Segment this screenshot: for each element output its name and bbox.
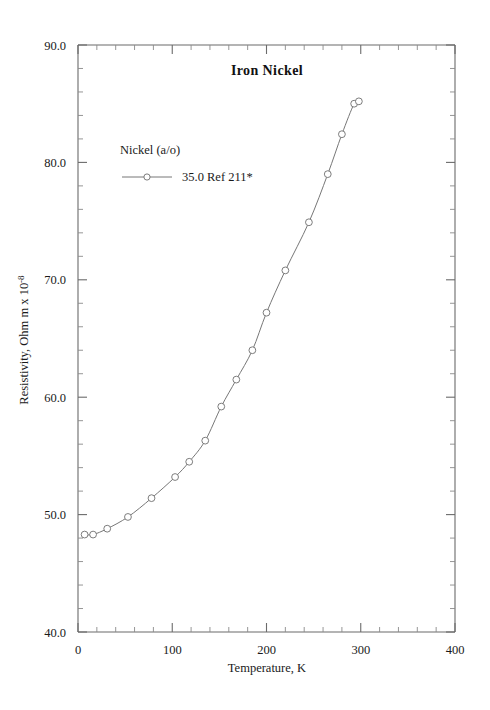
chart-background: [0, 0, 490, 710]
x-tick-label: 300: [351, 643, 370, 657]
data-point-marker: [148, 495, 155, 502]
y-tick-label: 90.0: [44, 39, 66, 53]
data-point-marker: [339, 131, 346, 138]
data-point-marker: [186, 458, 193, 465]
y-tick-label: 60.0: [44, 391, 66, 405]
y-axis-title-group: Resistivity, Ohm m x 10-8: [16, 275, 31, 405]
data-point-marker: [202, 437, 209, 444]
data-point-marker: [282, 267, 289, 274]
data-point-marker: [104, 525, 111, 532]
y-tick-label: 40.0: [44, 626, 66, 640]
x-tick-label: 0: [75, 643, 81, 657]
data-point-marker: [125, 514, 132, 521]
resistivity-line-chart: 0100200300400 40.050.060.070.080.090.0 I…: [0, 0, 490, 710]
data-point-marker: [90, 531, 97, 538]
y-tick-label: 70.0: [44, 273, 66, 287]
legend-sample-marker-icon: [144, 174, 150, 180]
chart-title: Iron Nickel: [231, 63, 303, 78]
x-tick-label: 100: [163, 643, 182, 657]
data-point-marker: [249, 347, 256, 354]
y-tick-label: 50.0: [44, 508, 66, 522]
data-point-marker: [218, 403, 225, 410]
x-tick-label: 400: [446, 643, 465, 657]
legend-series-label: 35.0 Ref 211*: [182, 170, 253, 184]
data-point-marker: [263, 309, 270, 316]
data-point-marker: [233, 376, 240, 383]
y-tick-label: 80.0: [44, 156, 66, 170]
legend-header: Nickel (a/o): [120, 143, 180, 157]
data-point-marker: [81, 531, 88, 538]
data-point-marker: [355, 98, 362, 105]
data-point-marker: [306, 219, 313, 226]
x-axis-title: Temperature, K: [228, 661, 306, 675]
y-axis-title: Resistivity, Ohm m x 10-8: [16, 275, 31, 405]
data-point-marker: [172, 474, 179, 481]
x-tick-label: 200: [257, 643, 276, 657]
data-point-marker: [324, 171, 331, 178]
chart-figure: 0100200300400 40.050.060.070.080.090.0 I…: [0, 0, 490, 710]
